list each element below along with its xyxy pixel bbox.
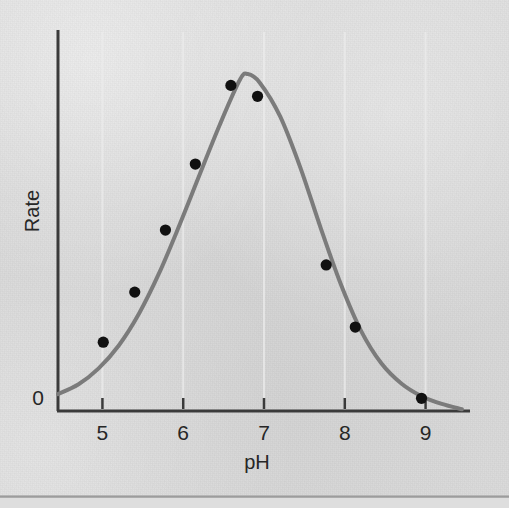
- data-point: [98, 337, 109, 348]
- x-axis-title: pH: [244, 451, 270, 474]
- data-point: [190, 158, 201, 169]
- data-point: [225, 80, 236, 91]
- ph-rate-figure: 0 Rate pH 56789: [0, 0, 509, 508]
- data-point: [416, 393, 427, 404]
- x-axis-ticks: [102, 398, 425, 409]
- plot-area: [0, 0, 509, 508]
- footer-band: [0, 498, 509, 508]
- y-axis-zero-label: 0: [32, 386, 44, 410]
- data-point: [252, 91, 263, 102]
- y-axis-title: Rate: [21, 190, 44, 232]
- x-tick-label-9: 9: [420, 421, 432, 445]
- x-tick-label-5: 5: [97, 421, 109, 445]
- data-point: [129, 287, 140, 298]
- x-tick-label-8: 8: [339, 421, 351, 445]
- x-tick-label-7: 7: [258, 421, 270, 445]
- data-point: [350, 321, 361, 332]
- data-point: [160, 224, 171, 235]
- fitted-bell-curve: [58, 74, 462, 410]
- x-tick-label-6: 6: [177, 421, 189, 445]
- data-point: [321, 259, 332, 270]
